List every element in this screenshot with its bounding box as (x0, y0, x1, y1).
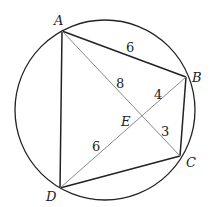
length-label-be: 4 (154, 87, 162, 102)
point-label-e: E (120, 114, 131, 129)
point-label-b: B (191, 70, 202, 85)
diagram-canvas: ABCDE68436 (0, 0, 213, 207)
point-label-d: D (45, 189, 57, 204)
side-da (60, 31, 62, 188)
side-bc (180, 77, 186, 156)
length-label-ae: 8 (116, 76, 124, 91)
length-label-ec: 3 (161, 124, 169, 139)
length-label-de: 6 (92, 139, 100, 154)
point-label-a: A (53, 13, 63, 28)
geometry-diagram: ABCDE68436 (0, 0, 213, 207)
side-ab (62, 31, 186, 77)
point-label-c: C (186, 155, 196, 170)
length-label-ab: 6 (126, 40, 134, 55)
